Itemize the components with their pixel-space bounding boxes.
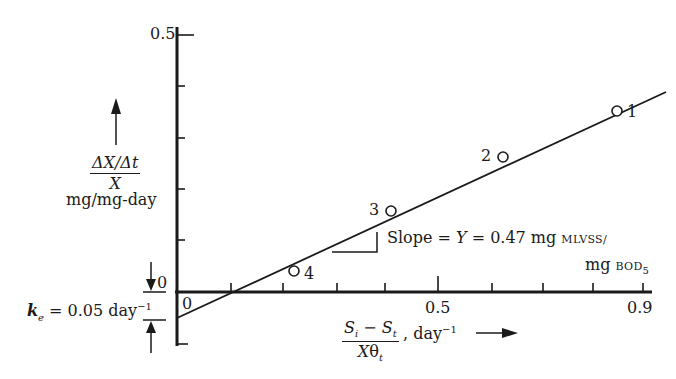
x-axis-units: , day−1 — [403, 325, 457, 342]
x-arrow-icon — [476, 328, 518, 338]
data-point-4 — [289, 266, 299, 276]
point-label-1: 1 — [627, 104, 637, 120]
slope-annotation: Slope = Y = 0.47 mg MLVSS/ — [387, 230, 607, 246]
data-point-3 — [386, 206, 396, 216]
data-point-1 — [612, 106, 622, 116]
y-tick-label-0: 0 — [157, 275, 167, 291]
x-axis-label-fraction: Si − St Xθt — [342, 320, 399, 363]
y-axis-units: mg/mg-day — [66, 192, 156, 208]
y-arrow-icon — [111, 98, 121, 145]
x-label-denominator: Xθt — [342, 342, 399, 363]
x-label-numerator: Si − St — [342, 320, 399, 342]
ke-annotation: ke = 0.05 day−1 — [27, 302, 152, 323]
x-tick-label-0.9: 0.9 — [627, 300, 652, 316]
data-point-2 — [498, 152, 508, 162]
ke-arrow-down-icon — [146, 279, 156, 291]
x-tick-label-0: 0 — [182, 296, 192, 312]
y-axis-label-fraction: ΔX/Δt X — [90, 155, 140, 192]
x-ticks — [231, 276, 643, 292]
ke-arrow-up-icon — [146, 321, 156, 333]
point-label-2: 2 — [481, 148, 491, 164]
y-tick-label-0.5: 0.5 — [150, 26, 175, 42]
x-tick-label-0.5: 0.5 — [425, 300, 450, 316]
point-label-3: 3 — [369, 202, 379, 218]
y-label-numerator: ΔX/Δt — [90, 155, 140, 174]
slope-annotation-line2: mg BOD5 — [585, 257, 649, 276]
point-label-4: 4 — [304, 266, 314, 282]
